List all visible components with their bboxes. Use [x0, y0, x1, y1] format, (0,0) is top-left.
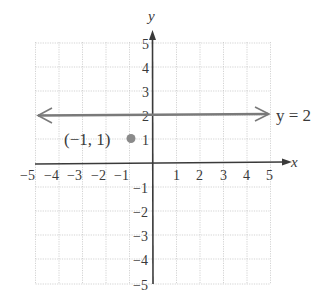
x-tick: −5 [20, 168, 35, 183]
x-tick: 4 [243, 168, 250, 183]
x-tick: 3 [220, 168, 227, 183]
line-equation-label: y = 2 [276, 106, 311, 125]
x-tick: −3 [67, 168, 82, 183]
y-axis-arrow-icon [149, 30, 156, 40]
data-point [127, 134, 136, 143]
y-tick-labels: 5 4 3 2 1 −1 −2 −3 −4 −5 [133, 37, 149, 293]
point-label: (−1, 1) [64, 130, 110, 149]
y-tick: 4 [142, 61, 149, 76]
x-tick: −2 [91, 168, 106, 183]
y-tick: −5 [133, 278, 148, 293]
x-axis-label: x [290, 154, 298, 170]
y-axis-label: y [146, 8, 155, 24]
y-tick: −1 [133, 181, 148, 196]
x-tick: −1 [114, 168, 129, 183]
y-tick: −3 [133, 229, 148, 244]
y-tick: −2 [133, 205, 148, 220]
y-tick: 1 [142, 133, 149, 148]
y-tick: 2 [142, 109, 149, 124]
y-tick: 5 [142, 37, 149, 52]
coordinate-plane: x y −5 −4 −3 −2 −1 1 2 3 4 5 5 4 3 2 1 −… [0, 0, 329, 303]
x-tick: −4 [44, 168, 59, 183]
x-tick: 5 [266, 168, 273, 183]
point-neg1-1: (−1, 1) [64, 130, 136, 149]
y-tick: −4 [133, 253, 148, 268]
x-axis [35, 162, 284, 164]
horizontal-line [38, 114, 268, 116]
y-tick: 3 [142, 85, 149, 100]
x-tick: 2 [196, 168, 203, 183]
x-tick: 1 [173, 168, 180, 183]
y-axis [153, 38, 154, 284]
